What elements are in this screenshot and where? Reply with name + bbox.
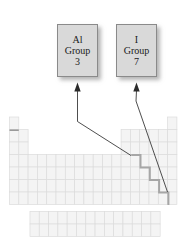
arrow-overlay	[0, 0, 186, 252]
figure-canvas: Al Group 3 I Group 7	[0, 0, 186, 252]
arrow-al-head	[74, 83, 80, 92]
arrow-al	[74, 83, 131, 156]
arrow-i	[133, 83, 167, 193]
arrow-i-head	[133, 83, 139, 92]
